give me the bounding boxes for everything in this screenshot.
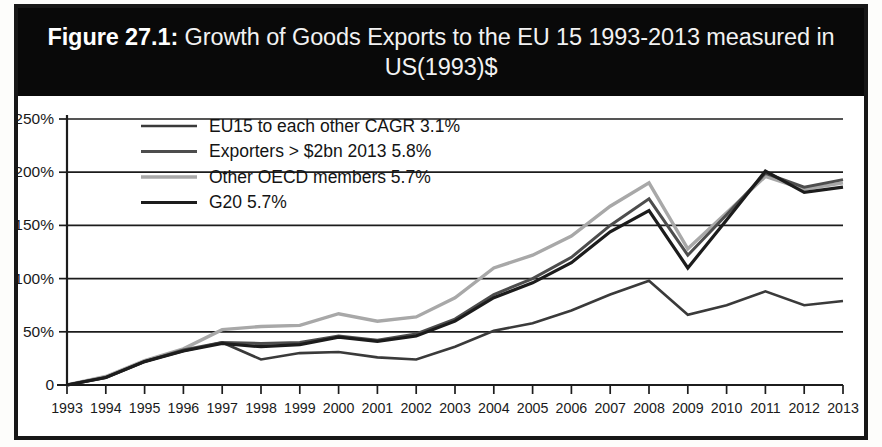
x-axis-tick-label: 2012 <box>788 400 820 416</box>
x-axis-tick-label: 1995 <box>129 400 161 416</box>
y-axis-tick-label: 250% <box>18 110 54 127</box>
x-axis-tick-label: 2009 <box>672 400 704 416</box>
figure-container: Figure 27.1: Growth of Goods Exports to … <box>0 0 882 447</box>
x-axis-labels: 1993199419951996199719981999200020012002… <box>51 400 859 416</box>
x-axis-tick-label: 1997 <box>206 400 238 416</box>
chart-legend: EU15 to each other CAGR 3.1%Exporters > … <box>141 116 460 213</box>
x-axis-tick-label: 2004 <box>478 400 510 416</box>
x-axis-tick-label: 2001 <box>362 400 394 416</box>
x-axis-tick-label: 2008 <box>633 400 665 416</box>
legend-item-label: Other OECD members 5.7% <box>209 167 431 187</box>
y-axis-tick-label: 150% <box>18 216 54 233</box>
x-axis-tick-label: 2010 <box>711 400 743 416</box>
x-axis-tick-label: 2000 <box>323 400 355 416</box>
y-axis-ticks <box>59 119 67 385</box>
y-axis-tick-label: 200% <box>18 163 54 180</box>
y-axis-tick-label: 0 <box>45 376 54 393</box>
legend-item-label: EU15 to each other CAGR 3.1% <box>209 116 460 136</box>
x-axis-tick-label: 2013 <box>827 400 859 416</box>
x-axis-tick-label: 2006 <box>556 400 588 416</box>
x-axis-tick-label: 2007 <box>594 400 626 416</box>
x-axis-tick-label: 1996 <box>168 400 200 416</box>
x-axis-tick-label: 1994 <box>90 400 122 416</box>
y-axis-tick-label: 100% <box>18 270 54 287</box>
x-axis-tick-label: 2003 <box>439 400 471 416</box>
legend-item-label: Exporters > $2bn 2013 5.8% <box>209 141 431 161</box>
x-axis-tick-label: 2011 <box>750 400 781 416</box>
x-axis-tick-label: 1993 <box>51 400 83 416</box>
figure-title-banner: Figure 27.1: Growth of Goods Exports to … <box>18 8 864 96</box>
y-axis-labels: 050%100%150%200%250% <box>18 110 54 393</box>
x-axis-ticks <box>67 385 843 394</box>
y-axis-tick-label: 50% <box>23 323 54 340</box>
legend-item-label: G20 5.7% <box>209 192 287 212</box>
page-title: Figure 27.1: Growth of Goods Exports to … <box>36 22 846 82</box>
x-axis-tick-label: 2002 <box>400 400 432 416</box>
series-line <box>67 176 843 385</box>
x-axis-tick-label: 1999 <box>284 400 316 416</box>
figure-number-label: Figure 27.1: <box>47 24 178 50</box>
line-chart: 050%100%150%200%250% 1993199419951996199… <box>18 96 864 436</box>
figure-title-text: Growth of Goods Exports to the EU 15 199… <box>178 24 834 80</box>
chart-plot-area: 050%100%150%200%250% 1993199419951996199… <box>18 96 864 436</box>
x-axis-tick-label: 2005 <box>517 400 549 416</box>
x-axis-tick-label: 1998 <box>245 400 277 416</box>
